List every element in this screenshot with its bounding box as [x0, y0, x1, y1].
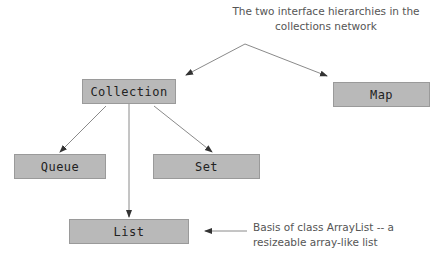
node-map: Map	[333, 82, 430, 107]
node-set: Set	[153, 154, 260, 179]
node-queue: Queue	[14, 154, 106, 179]
node-collection: Collection	[82, 79, 176, 104]
hierarchies-note-line1: The two interface hierarchies in the	[231, 4, 421, 19]
diagram-canvas: The two interface hierarchies in the col…	[0, 0, 443, 258]
arraylist-note: Basis of class ArrayList -- a resizeable…	[253, 220, 443, 250]
arraylist-note-line2: resizeable array-like list	[253, 235, 443, 250]
hierarchies-note-line2: collections network	[231, 19, 421, 34]
node-list: List	[69, 219, 189, 244]
arraylist-note-line1: Basis of class ArrayList -- a	[253, 220, 443, 235]
hierarchies-note: The two interface hierarchies in the col…	[231, 4, 421, 34]
